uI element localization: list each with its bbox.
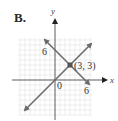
y-tick-label-6: 6	[42, 46, 47, 57]
x-axis-label: x	[109, 75, 114, 85]
y-axis-label: y	[50, 6, 55, 16]
intersection-point	[68, 63, 73, 68]
point-label: (3, 3)	[74, 60, 96, 72]
coordinate-graph: y x 6 6 0 (3, 3)	[0, 0, 118, 121]
line-x-plus-y-equals-6	[45, 40, 70, 65]
x-tick-label-6: 6	[84, 85, 89, 96]
origin-label: 0	[57, 80, 62, 91]
